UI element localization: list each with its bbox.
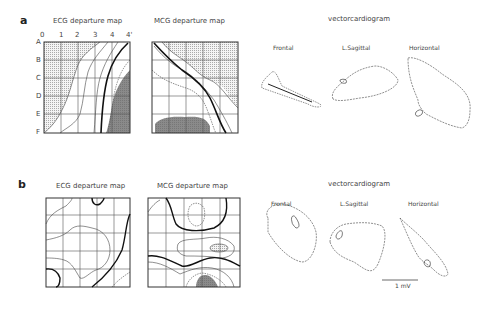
vcg-b-horizontal — [400, 218, 448, 276]
vcg-b-sagittal — [330, 223, 385, 271]
ecg-map-b — [46, 198, 130, 287]
vcg-a-frontal — [262, 72, 321, 107]
mcg-map-b — [148, 198, 240, 287]
vcg-a-horizontal — [408, 58, 470, 128]
vcg-a-sagittal — [332, 66, 398, 101]
figure-graphics — [0, 0, 479, 313]
ecg-map-a — [44, 42, 130, 133]
vcg-b-frontal — [267, 204, 317, 262]
mcg-map-a — [152, 42, 238, 133]
